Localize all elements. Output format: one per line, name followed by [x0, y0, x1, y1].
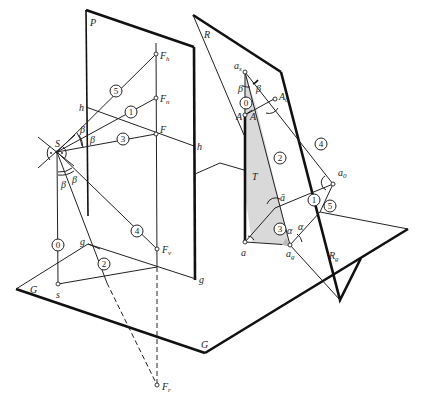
label-h-left: h	[79, 102, 84, 113]
label-beta-as-2: β	[255, 83, 261, 94]
svg-text:3: 3	[121, 134, 126, 144]
svg-text:0: 0	[244, 98, 249, 108]
point-A0	[273, 97, 277, 101]
label-ground-G-bottom: G	[201, 339, 208, 350]
svg-text:2: 2	[102, 259, 107, 269]
right-angle-dot-2	[61, 152, 63, 154]
point-Fh	[154, 52, 158, 56]
point-F	[154, 132, 158, 136]
label-ag: ag	[286, 248, 295, 261]
right-angle-arc-a0	[321, 176, 326, 190]
horizon-line-h	[86, 107, 194, 146]
ray-number-2-right: 2	[274, 152, 286, 164]
ground-edge-back	[16, 244, 88, 289]
ray-number-0-right: 0	[240, 97, 252, 109]
ray-number-5-right: 5	[324, 200, 336, 212]
perspective-construction-diagram: 5 1 3 0 4 2 0 2 4 1 5 3 P R G G T S s F …	[0, 0, 422, 409]
svg-text:4: 4	[135, 226, 140, 236]
line-5-ext	[320, 212, 408, 229]
label-beta-upper-1: β	[79, 124, 85, 135]
svg-text:1: 1	[312, 195, 317, 205]
label-Fh: Fh	[159, 50, 170, 63]
line-5-ag	[290, 212, 320, 245]
label-beta-lower-1: β	[60, 179, 66, 190]
vertical-line-F	[156, 43, 157, 267]
ray-number-0-left: 0	[52, 239, 64, 251]
ray-number-2-left: 2	[98, 258, 110, 270]
plane-P-top-edge	[86, 10, 194, 47]
label-ground-G-left: G	[30, 284, 37, 295]
label-h-right: h	[197, 141, 202, 152]
label-a-bar: ā	[280, 192, 285, 203]
label-beta-as-1: β	[237, 83, 243, 94]
svg-text:1: 1	[129, 107, 134, 117]
svg-text:4: 4	[319, 139, 324, 149]
ray-number-4-right: 4	[315, 138, 327, 150]
point-A	[243, 113, 247, 117]
label-Fr: Fr	[161, 381, 171, 394]
right-angle-arc-A	[266, 108, 278, 113]
point-s	[56, 282, 60, 286]
point-as	[243, 70, 247, 74]
angle-arc-beta-lower	[58, 168, 72, 172]
point-a0	[331, 182, 335, 186]
right-angle-dot	[50, 152, 52, 154]
rays-from-S	[38, 54, 157, 385]
connector-zigzag	[195, 163, 244, 174]
plane-P-right-edge	[194, 47, 195, 280]
label-alpha-2: α	[298, 221, 304, 232]
ground-edge-right	[205, 229, 408, 353]
label-S: S	[55, 138, 60, 149]
label-Fn: Fn	[159, 93, 170, 106]
label-A-right: A	[249, 111, 257, 122]
ray-1	[57, 98, 156, 152]
label-plane-P: P	[89, 17, 96, 28]
label-as: as	[234, 60, 242, 73]
label-plane-R: R	[203, 29, 210, 40]
label-beta-upper-2: β	[89, 134, 95, 145]
ray-number-3-right: 3	[274, 223, 286, 235]
point-Fr	[155, 383, 159, 387]
ray-number-4-left: 4	[131, 225, 143, 237]
svg-text:0: 0	[56, 240, 61, 250]
ray-number-3-left: 3	[117, 133, 129, 145]
point-S	[55, 150, 58, 153]
label-a: a	[241, 247, 246, 258]
label-g-right: g	[199, 274, 204, 285]
ground-plane-G	[16, 229, 408, 353]
picture-plane-P	[86, 10, 195, 280]
svg-text:3: 3	[278, 224, 283, 234]
point-ag	[288, 243, 292, 247]
line-s-to-ground	[58, 267, 157, 284]
svg-text:2: 2	[278, 153, 283, 163]
ray-number-1-right: 1	[308, 194, 320, 206]
label-a0: a0	[338, 167, 347, 180]
svg-text:5: 5	[114, 86, 119, 96]
point-a	[243, 240, 247, 244]
ray-number-1-left: 1	[125, 106, 137, 118]
svg-text:5: 5	[328, 201, 333, 211]
line-3-a-ag	[245, 242, 340, 300]
label-g-left: g	[80, 236, 85, 247]
label-beta-lower-2: β	[71, 174, 77, 185]
ray-number-5-left: 5	[110, 85, 122, 97]
label-alpha-1: α	[287, 225, 293, 236]
label-F: F	[159, 124, 167, 135]
ground-edge-left	[16, 289, 205, 353]
label-s: s	[56, 289, 60, 300]
point-Fn	[154, 96, 158, 100]
label-Fv: Fv	[161, 244, 172, 257]
plane-P-left-edge	[86, 10, 88, 216]
ray-0	[57, 152, 58, 284]
point-Fv	[155, 247, 159, 251]
label-A-left: A	[235, 111, 243, 122]
